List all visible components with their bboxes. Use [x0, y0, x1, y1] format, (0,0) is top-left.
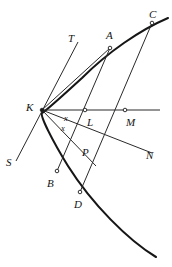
geometry-figure: T A C K x L M x S P N B D [0, 0, 172, 267]
point-M [123, 108, 127, 112]
label-K: K [26, 102, 33, 113]
point-L [83, 108, 87, 112]
label-angle-x-upper: x [64, 114, 68, 123]
label-P: P [82, 147, 89, 158]
label-M: M [126, 117, 135, 128]
label-C: C [149, 9, 156, 20]
label-N: N [146, 150, 153, 161]
point-A [108, 46, 112, 50]
line-KN [42, 110, 152, 153]
chord-KA [42, 48, 110, 110]
point-B [55, 169, 59, 173]
label-D: D [74, 199, 82, 210]
label-B: B [47, 178, 54, 189]
parabola-curve [42, 18, 168, 257]
point-D [78, 190, 82, 194]
label-T: T [68, 33, 74, 44]
point-C [150, 21, 154, 25]
figure-canvas [0, 0, 172, 267]
label-angle-x-lower: x [61, 124, 65, 133]
label-L: L [87, 117, 93, 128]
point-K [40, 108, 44, 112]
label-S: S [6, 157, 12, 168]
label-A: A [106, 30, 113, 41]
